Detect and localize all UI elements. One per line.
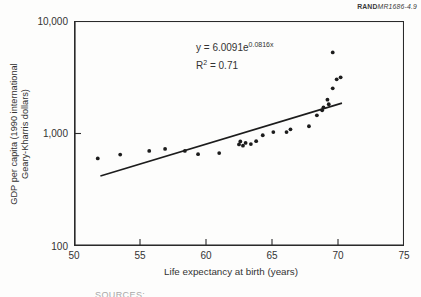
x-tick-label: 60 bbox=[191, 250, 221, 261]
data-point bbox=[96, 157, 100, 161]
trend-line bbox=[100, 103, 342, 176]
data-point bbox=[238, 140, 242, 144]
data-point bbox=[183, 149, 187, 153]
data-point bbox=[331, 86, 335, 90]
x-tick-label: 75 bbox=[389, 250, 419, 261]
data-point bbox=[327, 102, 331, 106]
figure-number-label: MR1686-4.9 bbox=[378, 3, 417, 10]
figure-reference: RANDMR1686-4.9 bbox=[357, 3, 417, 10]
data-point bbox=[118, 153, 122, 157]
data-point bbox=[261, 133, 265, 137]
data-point bbox=[322, 105, 326, 109]
data-point bbox=[147, 149, 151, 153]
data-point bbox=[254, 139, 258, 143]
data-point bbox=[315, 113, 319, 117]
data-point bbox=[271, 130, 275, 134]
x-tick-label: 50 bbox=[59, 250, 89, 261]
data-point bbox=[196, 152, 200, 156]
y-tick-label: 10,000 bbox=[8, 16, 68, 27]
y-tick-label: 100 bbox=[8, 241, 68, 252]
y-tick-label: 1,000 bbox=[8, 128, 68, 139]
data-point bbox=[326, 98, 330, 102]
equation-exponent: 0.0816x bbox=[249, 41, 274, 48]
data-point bbox=[217, 151, 221, 155]
x-tick-label: 65 bbox=[257, 250, 287, 261]
data-point bbox=[289, 127, 293, 131]
x-tick-label: 55 bbox=[125, 250, 155, 261]
data-point bbox=[249, 142, 253, 146]
r-squared-label: R2 = 0.71 bbox=[196, 55, 273, 73]
data-point bbox=[339, 75, 343, 79]
sources-note-partial: SOURCES: bbox=[95, 290, 315, 297]
figure: RANDMR1686-4.9 GDP per capita (1990 inte… bbox=[0, 0, 421, 297]
x-axis-title: Life expectancy at birth (years) bbox=[66, 266, 396, 277]
data-point bbox=[241, 144, 245, 148]
data-point bbox=[163, 147, 167, 151]
regression-annotation: y = 6.0091e0.0816x R2 = 0.71 bbox=[196, 37, 273, 74]
rand-brand-label: RAND bbox=[357, 3, 377, 10]
data-point bbox=[285, 130, 289, 134]
data-point bbox=[307, 124, 311, 128]
data-point bbox=[244, 141, 248, 145]
equation-base: y = 6.0091e bbox=[196, 42, 249, 53]
data-point bbox=[331, 50, 335, 54]
r-squared-value: = 0.71 bbox=[207, 61, 238, 72]
x-tick-label: 70 bbox=[323, 250, 353, 261]
data-point bbox=[335, 77, 339, 81]
equation-label: y = 6.0091e0.0816x bbox=[196, 37, 273, 55]
